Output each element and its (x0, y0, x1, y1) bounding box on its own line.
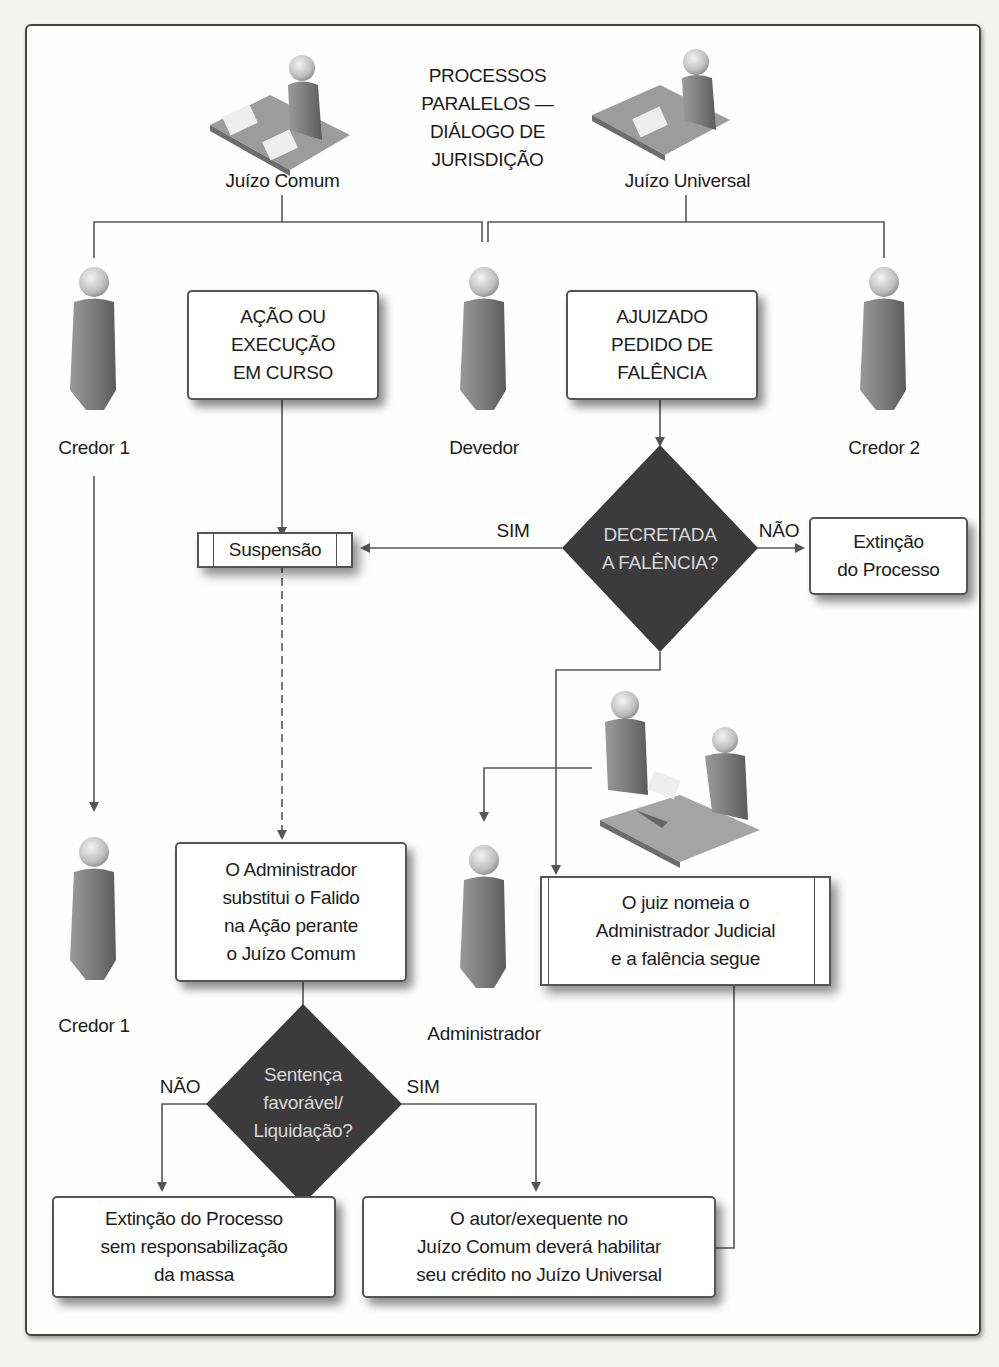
label-juizo-comum: Juízo Comum (200, 168, 365, 194)
decision-decretada-no: NÃO (754, 518, 804, 544)
label-devedor: Devedor (434, 435, 534, 461)
judge-at-desk-icon (210, 55, 350, 176)
label-credor-2: Credor 2 (834, 435, 934, 461)
decision-sentenca-no: NÃO (155, 1074, 205, 1100)
judge-at-desk-icon (592, 49, 730, 161)
box-suspensao: Suspensão (197, 532, 353, 568)
box-administrador-substitui: O Administrador substitui o Falido na Aç… (175, 842, 407, 982)
box-extincao-processo: Extinção do Processo (809, 517, 968, 595)
two-people-meeting-icon (600, 691, 760, 868)
decision-decretada-text: DECRETADA A FALÊNCIA? (590, 521, 730, 577)
label-credor-1-bottom: Credor 1 (44, 1013, 144, 1039)
diagram-title: PROCESSOS PARALELOS — DIÁLOGO DE JURISDI… (400, 62, 575, 174)
box-autor-habilitar: O autor/exequente no Juízo Comum deverá … (362, 1196, 716, 1298)
decision-sentenca-text: Sentença favorável/ Liquidação? (243, 1061, 363, 1145)
box-extincao-sem-responsabilizacao: Extinção do Processo sem responsabilizaç… (52, 1196, 336, 1298)
box-ajuizado-pedido: AJUIZADO PEDIDO DE FALÊNCIA (566, 290, 758, 400)
label-juizo-universal: Juízo Universal (600, 168, 775, 194)
box-juiz-nomeia: O juiz nomeia o Administrador Judicial e… (540, 876, 831, 986)
connector-lines (0, 0, 999, 1367)
box-acao-execucao: AÇÃO OU EXECUÇÃO EM CURSO (187, 290, 379, 400)
decision-decretada-yes: SIM (488, 518, 538, 544)
decision-sentenca-yes: SIM (398, 1074, 448, 1100)
label-administrador: Administrador (414, 1021, 554, 1047)
label-credor-1: Credor 1 (44, 435, 144, 461)
